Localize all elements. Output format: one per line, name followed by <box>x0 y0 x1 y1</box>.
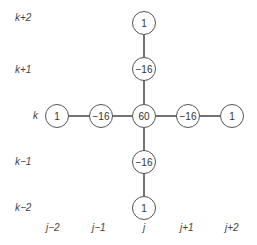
node-j-minus-2: 1 <box>45 104 69 128</box>
row-label-k-minus-2: k−2 <box>15 202 31 214</box>
node-value: −16 <box>93 111 110 122</box>
node-value: −16 <box>180 111 197 122</box>
node-value: 60 <box>138 111 149 122</box>
node-value: 1 <box>141 203 147 214</box>
col-label-j-minus-2: j−2 <box>46 222 60 234</box>
node-j-minus-1: −16 <box>89 104 113 128</box>
node-j-plus-2: 1 <box>220 104 244 128</box>
node-value: −16 <box>136 157 153 168</box>
row-label-k-plus-2: k+2 <box>15 12 31 24</box>
col-label-j: j <box>143 222 145 234</box>
node-center: 60 <box>132 104 156 128</box>
col-label-j-plus-2: j+2 <box>225 222 239 234</box>
stencil-connectors <box>0 0 257 245</box>
row-label-k-minus-1: k−1 <box>15 156 31 168</box>
node-value: 1 <box>229 111 235 122</box>
row-label-k: k <box>33 110 38 122</box>
node-k-plus-1: −16 <box>132 57 156 81</box>
col-label-j-plus-1: j+1 <box>180 222 194 234</box>
row-label-k-plus-1: k+1 <box>15 64 31 76</box>
node-value: 1 <box>141 18 147 29</box>
node-value: 1 <box>54 111 60 122</box>
col-label-j-minus-1: j−1 <box>92 222 106 234</box>
node-j-plus-1: −16 <box>176 104 200 128</box>
node-k-minus-2: 1 <box>132 196 156 220</box>
node-value: −16 <box>136 64 153 75</box>
node-k-minus-1: −16 <box>132 150 156 174</box>
node-k-plus-2: 1 <box>132 11 156 35</box>
